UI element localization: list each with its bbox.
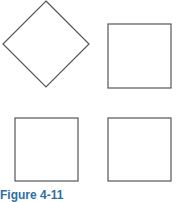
square-top-right [108, 24, 171, 88]
figure-canvas [0, 0, 178, 202]
square-bottom-right [108, 118, 171, 181]
diamond-shape [3, 1, 89, 87]
square-bottom-left [15, 118, 78, 181]
figure-caption: Figure 4-11 [0, 188, 63, 202]
